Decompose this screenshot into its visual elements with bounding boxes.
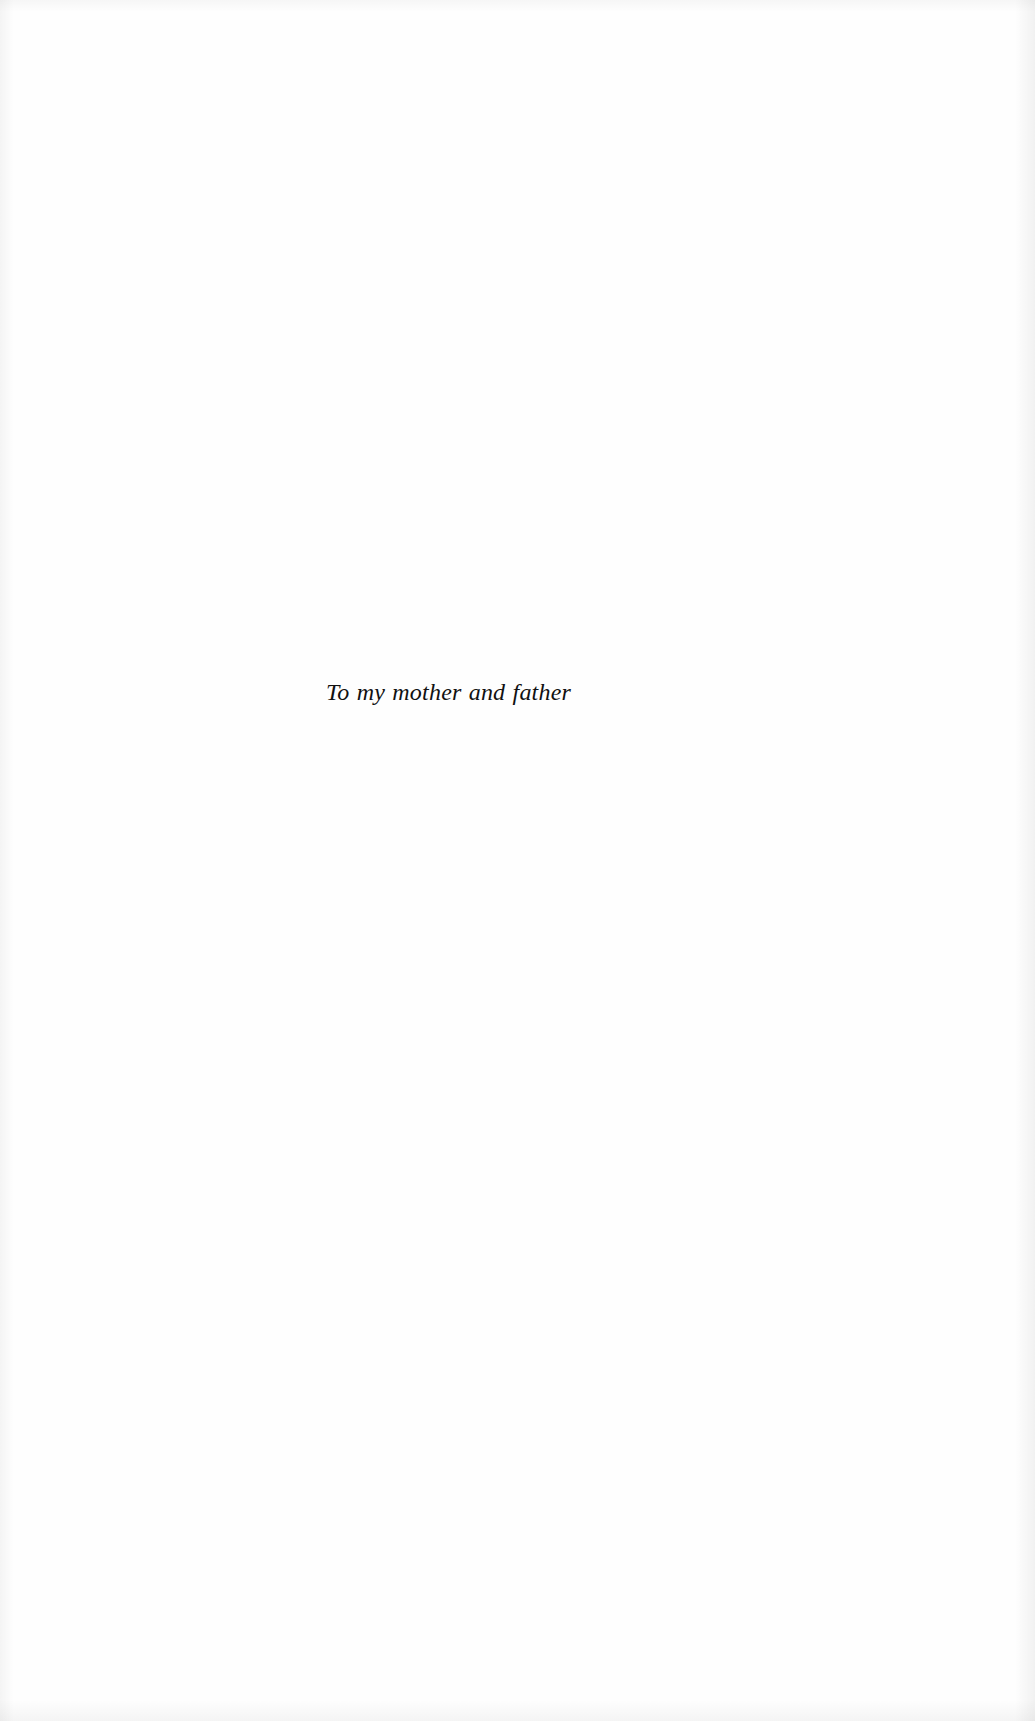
dedication-text: To my mother and father bbox=[326, 676, 571, 708]
dedication-page: To my mother and father bbox=[0, 0, 1035, 1721]
